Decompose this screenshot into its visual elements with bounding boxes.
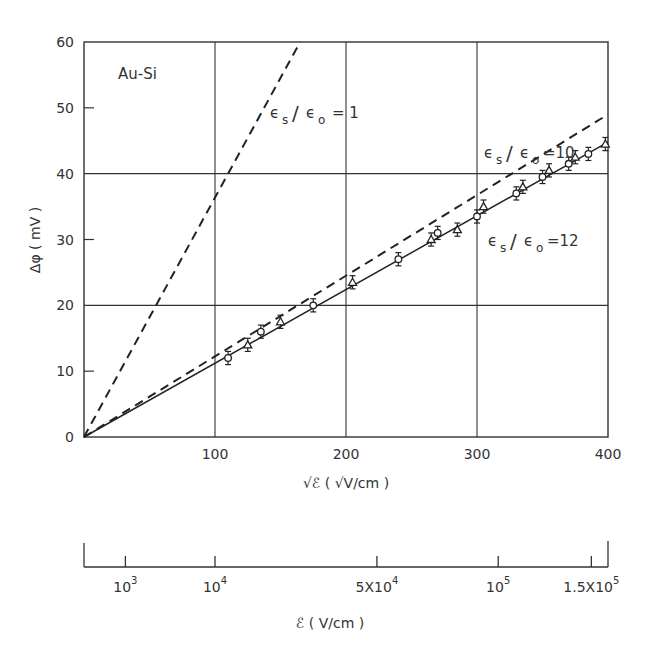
y-tick-label: 40 — [56, 166, 74, 182]
data-point — [539, 170, 546, 183]
x-tick-label: 100 — [202, 446, 229, 462]
svg-text:o: o — [532, 153, 539, 167]
svg-text:o: o — [536, 241, 543, 255]
svg-text:ϵ: ϵ — [484, 144, 493, 162]
y-tick-label: 20 — [56, 297, 74, 313]
svg-text:ϵ: ϵ — [270, 104, 279, 122]
data-point — [225, 351, 232, 364]
x-axis-title: √ℰ ( √V/cm ) — [303, 475, 389, 491]
data-point — [474, 210, 481, 223]
data-point — [513, 187, 520, 200]
svg-text:ϵ: ϵ — [306, 104, 315, 122]
data-point — [427, 233, 435, 246]
secondary-field-axis: 1031045X1041051.5X105 — [84, 541, 619, 595]
x-tick-label: 300 — [464, 446, 491, 462]
data-points — [225, 137, 610, 364]
secondary-tick-label: 103 — [113, 575, 137, 595]
secondary-axis-title: ℰ ( V/cm ) — [296, 615, 364, 631]
svg-text:s: s — [496, 153, 502, 167]
x-axis-ticks: 100200300400 — [202, 446, 622, 462]
svg-text:= 1: = 1 — [332, 104, 359, 122]
data-point — [545, 164, 553, 177]
y-tick-label: 0 — [65, 429, 74, 445]
svg-text:ϵ: ϵ — [524, 232, 533, 250]
secondary-tick-label: 1.5X105 — [563, 575, 619, 595]
annotation-eps10: ϵ s / ϵ o =10 — [484, 141, 575, 167]
svg-text:o: o — [318, 113, 325, 127]
svg-text:=12: =12 — [547, 232, 579, 250]
svg-text:/: / — [292, 101, 299, 125]
y-axis-title: Δφ ( mV ) — [27, 207, 43, 273]
x-tick-label: 200 — [333, 446, 360, 462]
data-point — [585, 147, 592, 160]
annotation-eps12: ϵ s / ϵ o =12 — [488, 229, 579, 255]
svg-text:/: / — [506, 141, 513, 165]
data-point — [395, 253, 402, 266]
svg-text:ϵ: ϵ — [488, 232, 497, 250]
svg-text:=10: =10 — [543, 144, 575, 162]
chart-figure: 0102030405060 100200300400 Au-Si ϵ s / ϵ… — [0, 0, 658, 660]
svg-text:/: / — [510, 229, 517, 253]
data-point — [434, 226, 441, 239]
data-point — [244, 338, 252, 351]
theory-line — [84, 42, 300, 437]
y-tick-label: 50 — [56, 100, 74, 116]
y-tick-label: 30 — [56, 232, 74, 248]
secondary-tick-label: 5X104 — [356, 575, 399, 595]
y-tick-label: 60 — [56, 34, 74, 50]
svg-text:ϵ: ϵ — [520, 144, 529, 162]
svg-text:s: s — [282, 113, 288, 127]
sample-label: Au-Si — [118, 65, 157, 83]
y-tick-label: 10 — [56, 363, 74, 379]
secondary-tick-label: 104 — [203, 575, 227, 595]
x-tick-label: 400 — [595, 446, 622, 462]
svg-text:s: s — [500, 241, 506, 255]
secondary-tick-label: 105 — [486, 575, 510, 595]
y-axis-ticks: 0102030405060 — [56, 34, 94, 445]
